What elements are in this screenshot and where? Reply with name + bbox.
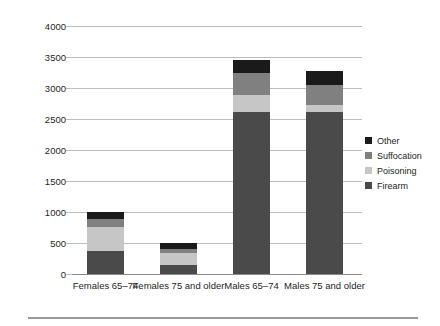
bar-segment-firearm: [233, 112, 270, 274]
bar-segment-poisoning: [87, 227, 124, 251]
bar-segment-suffocation: [306, 85, 343, 105]
bar-segment-other: [87, 212, 124, 219]
bar-segment-firearm: [87, 251, 124, 274]
bar-females-65-74: [87, 26, 124, 274]
legend-swatch-icon: [365, 152, 372, 159]
footer-rule: [28, 317, 418, 319]
legend-swatch-icon: [365, 182, 372, 189]
legend-item-other: Other: [365, 133, 422, 148]
legend-item-firearm: Firearm: [365, 178, 422, 193]
bar-segment-suffocation: [160, 249, 197, 253]
bar-segment-firearm: [306, 112, 343, 274]
bar-segment-suffocation: [87, 219, 124, 227]
bar-segment-other: [160, 243, 197, 249]
y-axis-tick-label: 3000: [45, 83, 66, 94]
bar-segment-poisoning: [306, 105, 343, 112]
bar-males-75-and-older: [306, 26, 343, 274]
bar-segment-poisoning: [233, 95, 270, 112]
bar-segment-other: [233, 60, 270, 73]
x-axis-label: Males 75 and older: [279, 280, 371, 292]
legend-item-poisoning: Poisoning: [365, 163, 422, 178]
legend-label: Poisoning: [377, 166, 417, 176]
legend-swatch-icon: [365, 167, 372, 174]
plot-area: [72, 26, 362, 274]
bar-females-75-and-older: [160, 26, 197, 274]
legend-swatch-icon: [365, 137, 372, 144]
legend-item-suffocation: Suffocation: [365, 148, 422, 163]
legend-label: Firearm: [377, 181, 408, 191]
gridline: [72, 274, 362, 275]
y-axis-tick-label: 1500: [45, 176, 66, 187]
bar-segment-firearm: [160, 265, 197, 274]
y-axis-tick-label: 4000: [45, 21, 66, 32]
stacked-bar-chart: Number of suicides 050010001500200025003…: [0, 0, 440, 326]
y-axis-tick-label: 2000: [45, 145, 66, 156]
chart-legend: OtherSuffocationPoisoningFirearm: [365, 133, 422, 193]
bar-males-65-74: [233, 26, 270, 274]
bar-segment-suffocation: [233, 73, 270, 95]
y-axis-tick-label: 1000: [45, 207, 66, 218]
legend-label: Other: [377, 136, 400, 146]
legend-label: Suffocation: [377, 151, 422, 161]
y-axis-tick-label: 3500: [45, 52, 66, 63]
y-axis-tick-label: 2500: [45, 114, 66, 125]
y-axis-tick-label: 500: [50, 238, 66, 249]
bar-segment-other: [306, 71, 343, 85]
bar-segment-poisoning: [160, 253, 197, 265]
